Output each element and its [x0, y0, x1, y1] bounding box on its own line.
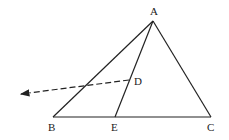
segment-ae [115, 21, 153, 117]
label-d: D [134, 75, 142, 87]
label-a: A [150, 5, 158, 17]
label-e: E [111, 121, 118, 133]
dashed-ray-from-d [21, 80, 129, 94]
label-c: C [207, 121, 214, 133]
label-b: B [48, 121, 55, 133]
triangle-diagram: A B C D E [0, 0, 229, 140]
segment-ab [53, 21, 153, 117]
segment-ac [153, 21, 211, 117]
